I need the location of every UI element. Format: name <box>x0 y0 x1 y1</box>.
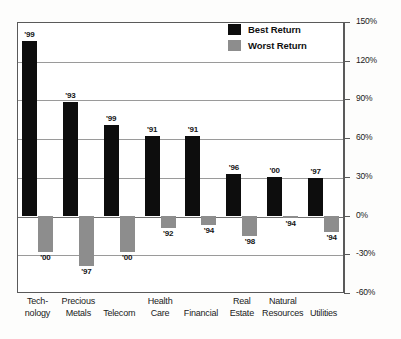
bar-worst-precious-metals <box>79 216 94 266</box>
bar-worst-technology <box>38 216 53 252</box>
legend-item-best-return: Best Return <box>228 24 338 35</box>
bar-label-worst-health-care: '92 <box>155 229 182 238</box>
y-tick-label: 0% <box>356 210 368 220</box>
bar-label-best-financial: '91 <box>179 125 206 134</box>
legend-label-best-return: Best Return <box>248 24 301 35</box>
bar-worst-real-estate <box>242 216 257 237</box>
y-axis: 150%120%90%60%30%0%-30%-60% <box>344 22 401 293</box>
legend-label-worst-return: Worst Return <box>248 40 307 51</box>
bar-label-best-real-estate: '96 <box>220 163 247 172</box>
bar-label-best-utilities: '97 <box>302 167 329 176</box>
legend-item-worst-return: Worst Return <box>228 40 338 51</box>
bar-worst-natural-resources <box>283 216 298 219</box>
bar-label-best-technology: '99 <box>16 30 43 39</box>
bar-label-worst-utilities: '94 <box>318 233 345 242</box>
y-tick-mark <box>344 177 350 178</box>
y-tick-mark <box>344 99 350 100</box>
bar-label-worst-natural-resources: '94 <box>277 219 304 228</box>
bar-best-precious-metals <box>63 102 78 216</box>
y-tick-mark <box>344 254 350 255</box>
bar-worst-health-care <box>161 216 176 229</box>
bar-label-best-natural-resources: '00 <box>261 166 288 175</box>
bar-label-worst-precious-metals: '97 <box>73 267 100 276</box>
y-tick-mark <box>344 61 350 62</box>
bar-worst-utilities <box>324 216 339 233</box>
bar-label-worst-telecom: '00 <box>114 253 141 262</box>
y-tick-label: 90% <box>356 93 372 103</box>
bar-best-real-estate <box>226 174 241 215</box>
y-tick-label: -60% <box>356 287 375 297</box>
y-tick-label: 30% <box>356 171 372 181</box>
bar-best-utilities <box>308 178 323 215</box>
bar-label-best-precious-metals: '93 <box>57 91 84 100</box>
best-return-swatch <box>228 24 241 35</box>
y-tick-mark <box>344 293 350 294</box>
bar-best-financial <box>185 136 200 216</box>
y-tick-label: -30% <box>356 248 375 258</box>
y-tick-label: 120% <box>356 55 377 65</box>
y-tick-label: 60% <box>356 132 372 142</box>
bar-worst-financial <box>201 216 216 225</box>
y-tick-label: 150% <box>356 16 377 26</box>
worst-return-swatch <box>228 40 241 51</box>
x-label-utilities: Utilities <box>297 296 350 319</box>
bar-worst-telecom <box>120 216 135 252</box>
bar-label-worst-real-estate: '98 <box>236 237 263 246</box>
bar-best-telecom <box>104 125 119 215</box>
bars-layer: '99'00'93'97'99'00'91'92'91'94'96'98'00'… <box>17 22 344 293</box>
bar-label-best-telecom: '99 <box>98 114 125 123</box>
bar-best-natural-resources <box>267 177 282 216</box>
y-tick-mark <box>344 138 350 139</box>
bar-label-worst-financial: '94 <box>195 226 222 235</box>
bar-label-best-health-care: '91 <box>139 125 166 134</box>
y-tick-mark <box>344 22 350 23</box>
bar-best-technology <box>22 41 37 215</box>
x-axis-labels: Tech-nologyPreciousMetalsTelecomHealthCa… <box>17 296 344 336</box>
bar-label-worst-technology: '00 <box>32 253 59 262</box>
y-tick-mark <box>344 216 350 217</box>
chart-container: '99'00'93'97'99'00'91'92'91'94'96'98'00'… <box>0 0 401 339</box>
x-label-line2: Utilities <box>297 308 350 320</box>
bar-best-health-care <box>145 136 160 216</box>
chart-legend: Best Return Worst Return <box>228 24 338 56</box>
